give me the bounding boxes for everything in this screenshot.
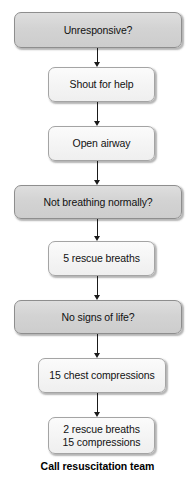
- node-label: Shout for help: [66, 78, 138, 91]
- bls-flowchart: Unresponsive? Shout for help Open airway…: [0, 0, 195, 479]
- node-label: 2 rescue breaths 15 compressions: [59, 423, 145, 448]
- flowchart-node-unresponsive[interactable]: Unresponsive?: [14, 12, 182, 48]
- flowchart-node-15-chest-compressions[interactable]: 15 chest compressions: [38, 358, 166, 393]
- flowchart-node-not-breathing-normally[interactable]: Not breathing normally?: [14, 185, 182, 219]
- node-label: 5 rescue breaths: [59, 252, 144, 265]
- node-label: Unresponsive?: [60, 24, 137, 37]
- node-label: Not breathing normally?: [39, 196, 156, 209]
- flowchart-node-shout-for-help[interactable]: Shout for help: [48, 67, 155, 102]
- flowchart-node-no-signs-of-life[interactable]: No signs of life?: [14, 300, 182, 334]
- flowchart-caption: Call resuscitation team: [0, 460, 195, 472]
- flowchart-node-5-rescue-breaths[interactable]: 5 rescue breaths: [48, 241, 155, 276]
- flowchart-node-2-rescue-breaths-15-compressions[interactable]: 2 rescue breaths 15 compressions: [48, 417, 155, 454]
- node-label: No signs of life?: [57, 311, 138, 324]
- flowchart-node-open-airway[interactable]: Open airway: [48, 126, 155, 161]
- node-label: Open airway: [69, 137, 135, 150]
- node-label: 15 chest compressions: [45, 369, 158, 382]
